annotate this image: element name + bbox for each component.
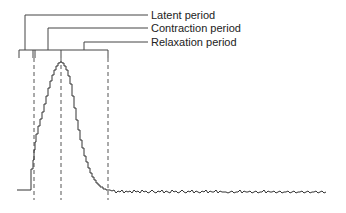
twitch-curve xyxy=(17,62,326,193)
twitch-myogram-diagram: Latent period Contraction period Relaxat… xyxy=(0,0,346,213)
contraction-period-label: Contraction period xyxy=(151,22,241,34)
phase-divider-lines xyxy=(34,58,108,200)
relaxation-leader-line xyxy=(84,42,148,50)
relaxation-period-label: Relaxation period xyxy=(151,36,237,48)
latent-period-label: Latent period xyxy=(151,9,215,21)
contraction-leader-line xyxy=(48,28,148,50)
latent-leader-line xyxy=(25,15,148,50)
label-leader-lines xyxy=(25,15,148,50)
period-brackets xyxy=(19,50,108,58)
